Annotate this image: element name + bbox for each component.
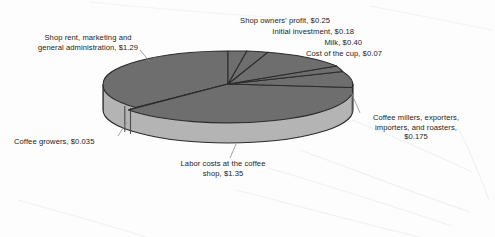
leader-line-labor-costs (230, 144, 236, 158)
slice-label-cost-of-the-cup: Cost of the cup, $0.07 (230, 49, 382, 59)
slice-label-shop-rent: Shop rent, marketing and general adminis… (12, 33, 164, 52)
slice-label-coffee-growers: Coffee growers, $0.035 (14, 137, 154, 147)
pie-top-face (103, 51, 353, 123)
slice-label-milk: Milk, $0.40 (210, 38, 362, 48)
slice-label-initial-investment: Initial investment, $0.18 (178, 27, 354, 37)
pie-chart-figure: Shop rent, marketing and general adminis… (0, 0, 495, 237)
slice-label-labor-costs: Labor costs at the coffee shop, $1.35 (150, 159, 296, 178)
slice-label-shop-owners-profit: Shop owners' profit, $0.25 (162, 16, 330, 26)
slice-label-coffee-millers: Coffee millers, exporters, importers, an… (352, 113, 480, 142)
